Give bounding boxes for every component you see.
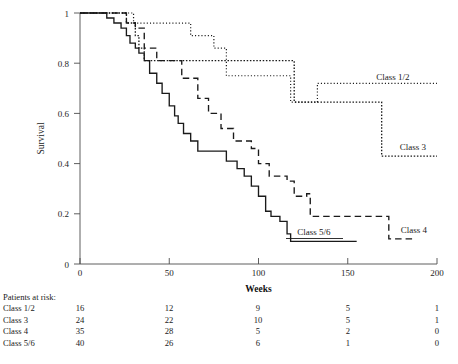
- risk-value: 22: [157, 315, 181, 326]
- risk-row-label: Class 3: [3, 315, 28, 326]
- y-tick-label-0.4: 0.4: [58, 159, 70, 169]
- x-tick-label-50: 50: [165, 268, 175, 278]
- risk-table-heading: Patients at risk:: [3, 292, 56, 303]
- x-axis-ticks: 0 50 100 150 200: [78, 258, 445, 278]
- axes: [80, 13, 437, 264]
- series-label-class-4: Class 4: [401, 225, 428, 235]
- risk-value: 10: [246, 315, 270, 326]
- y-tick-label-0.6: 0.6: [58, 109, 70, 119]
- series-label-class-1-2: Class 1/2: [376, 72, 409, 82]
- table-row: Class 4 35 28 5 2 0: [0, 326, 458, 337]
- risk-value: 2: [336, 326, 360, 337]
- risk-value: 16: [68, 303, 92, 314]
- risk-value: 5: [246, 326, 270, 337]
- risk-value: 5: [336, 303, 360, 314]
- x-axis-title: Weeks: [245, 284, 272, 292]
- risk-row-label: Class 1/2: [3, 303, 35, 314]
- risk-value: 35: [68, 326, 92, 337]
- risk-value: 26: [157, 338, 181, 349]
- y-tick-label-0: 0: [65, 260, 70, 270]
- series-label-class-3: Class 3: [400, 142, 427, 152]
- risk-value: 1: [425, 303, 449, 314]
- risk-value: 6: [246, 338, 270, 349]
- curve-class-5-6: [80, 13, 357, 241]
- y-tick-label-0.2: 0.2: [58, 209, 69, 219]
- risk-value: 12: [157, 303, 181, 314]
- series-label-class-5-6: Class 5/6: [297, 227, 331, 237]
- risk-row-label: Class 5/6: [3, 338, 35, 349]
- y-axis-ticks: 1 0.8 0.6 0.4 0.2 0: [58, 9, 80, 270]
- curve-class-4: [80, 13, 414, 239]
- risk-value: 0: [425, 338, 449, 349]
- risk-value: 9: [246, 303, 270, 314]
- table-row: Class 5/6 40 26 6 1 0: [0, 338, 458, 349]
- y-axis-title: Survival: [36, 122, 46, 155]
- risk-value: 40: [68, 338, 92, 349]
- curve-class-1-2: [80, 13, 437, 102]
- survival-chart-figure: 1 0.8 0.6 0.4 0.2 0 0 50 100 150 200 Sur…: [0, 0, 458, 364]
- risk-row-label: Class 4: [3, 326, 28, 337]
- kaplan-meier-plot: 1 0.8 0.6 0.4 0.2 0 0 50 100 150 200 Sur…: [0, 0, 458, 292]
- risk-value: 1: [336, 338, 360, 349]
- x-tick-label-200: 200: [430, 268, 444, 278]
- risk-value: 5: [336, 315, 360, 326]
- risk-value: 28: [157, 326, 181, 337]
- x-tick-label-0: 0: [78, 268, 83, 278]
- y-tick-label-0.8: 0.8: [58, 59, 70, 69]
- risk-value: 1: [425, 315, 449, 326]
- y-tick-label-1: 1: [65, 9, 70, 19]
- x-tick-label-150: 150: [341, 268, 355, 278]
- x-tick-label-100: 100: [252, 268, 266, 278]
- table-row: Class 3 24 22 10 5 1: [0, 315, 458, 326]
- risk-value: 0: [425, 326, 449, 337]
- risk-value: 24: [68, 315, 92, 326]
- curve-class-3: [80, 13, 437, 156]
- table-row: Class 1/2 16 12 9 5 1: [0, 303, 458, 314]
